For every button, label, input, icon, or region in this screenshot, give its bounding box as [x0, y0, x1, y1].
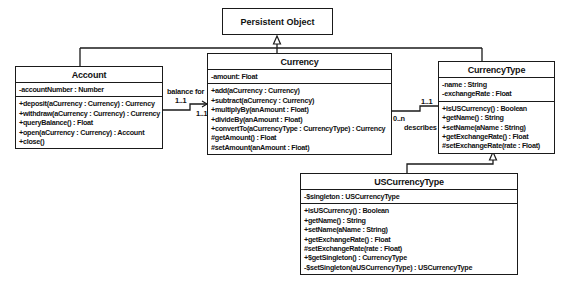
attribute: -$singleton : USCurrencyType [304, 192, 514, 201]
multiplicity-currency-end: 1..1 [196, 109, 208, 118]
operation: +isUSCurrency() : Boolean [304, 206, 514, 215]
attributes-section: -amount: Float [208, 70, 391, 84]
operation: +setName(aName : String) [442, 123, 551, 132]
class-name: USCurrencyType [301, 174, 517, 190]
operation: +getExchangeRate() : Float [304, 235, 514, 244]
multiplicity-currency-type-end: 1..1 [421, 97, 433, 106]
operation: +setName(aName : String) [304, 225, 514, 234]
operation: #getAmount() : Float [211, 133, 388, 142]
operation: +getName() : String [442, 113, 551, 122]
operation: +subtract(aCurrency : Currency) [211, 96, 388, 105]
attribute: -accountNumber : Number [19, 85, 159, 94]
operation: +add(aCurrency : Currency) [211, 86, 388, 95]
operations-section: +add(aCurrency : Currency) +subtract(aCu… [208, 84, 391, 154]
class-name: Account [16, 67, 162, 83]
operations-section: +isUSCurrency() : Boolean +getName() : S… [439, 102, 554, 153]
operation: +divideBy(anAmount : Float) [211, 115, 388, 124]
operation: +withdraw(aCurrency : Currency) : Curren… [19, 109, 159, 118]
class-currency: Currency -amount: Float +add(aCurrency :… [207, 53, 392, 155]
operation: +getName() : String [304, 216, 514, 225]
operation: +convertTo(aCurrencyType : CurrencyType)… [211, 124, 388, 133]
operation: #setExchangeRate(rate : Float) [442, 141, 551, 150]
class-name: CurrencyType [439, 62, 554, 78]
class-name: Persistent Object [240, 17, 314, 27]
class-us-currency-type: USCurrencyType -$singleton : USCurrencyT… [300, 173, 518, 275]
operations-section: +isUSCurrency() : Boolean +getName() : S… [301, 204, 517, 274]
operation: +multiplyBy(anAmount : Float) [211, 105, 388, 114]
attribute: -exchangeRate : Float [442, 89, 551, 98]
class-persistent-object: Persistent Object [222, 8, 333, 35]
operation: +deposit(aCurrency : Currency) : Currenc… [19, 99, 159, 108]
operation: +close() [19, 137, 159, 146]
generalization-arrow-icon [274, 36, 281, 44]
association-label-balance-for: balance for [167, 87, 204, 96]
attributes-section: -accountNumber : Number [16, 83, 162, 97]
multiplicity-account-end: 1..1 [175, 96, 187, 105]
operation: +$getSingleton() : CurrencyType [304, 253, 514, 262]
operation: +getExchangeRate() : Float [442, 132, 551, 141]
attribute: -name : String [442, 80, 551, 89]
class-name: Currency [208, 54, 391, 70]
operation: #setExchangeRate(rate : Float) [304, 244, 514, 253]
multiplicity-currency-describes-end: 0..n [393, 114, 405, 123]
attributes-section: -$singleton : USCurrencyType [301, 190, 517, 204]
attribute: -amount: Float [211, 72, 388, 81]
operation: +queryBalance() : Float [19, 118, 159, 127]
operation: -$setSingleton(aUSCurrencyType) : USCurr… [304, 263, 514, 272]
class-account: Account -accountNumber : Number +deposit… [15, 66, 163, 149]
association-label-describes: describes [404, 123, 437, 132]
operation: +isUSCurrency() : Boolean [442, 104, 551, 113]
class-currency-type: CurrencyType -name : String -exchangeRat… [438, 61, 555, 154]
attributes-section: -name : String -exchangeRate : Float [439, 78, 554, 102]
operation: +open(aCurrency : Currency) : Account [19, 128, 159, 137]
operation: #setAmount(anAmount : Float) [211, 143, 388, 152]
operations-section: +deposit(aCurrency : Currency) : Currenc… [16, 97, 162, 148]
